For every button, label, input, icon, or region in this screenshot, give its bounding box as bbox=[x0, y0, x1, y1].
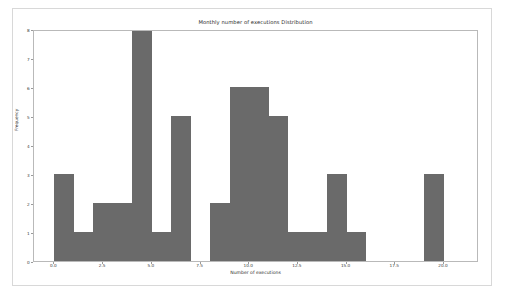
histogram-bar bbox=[269, 116, 288, 261]
histogram-bar bbox=[132, 31, 151, 261]
y-tick-label: 2 bbox=[27, 202, 30, 207]
histogram-bar bbox=[230, 87, 249, 261]
plot-axes bbox=[33, 30, 478, 262]
x-tick-label: 12.5 bbox=[292, 263, 301, 268]
x-tick-label: 10.0 bbox=[244, 263, 253, 268]
x-tick-label: 7.5 bbox=[196, 263, 203, 268]
y-tick-label: 6 bbox=[27, 86, 30, 91]
y-tick-label: 8 bbox=[27, 28, 30, 33]
histogram-bar bbox=[327, 174, 346, 261]
y-tick-label: 4 bbox=[27, 144, 30, 149]
y-tick-mark bbox=[31, 117, 33, 118]
histogram-bar bbox=[74, 232, 93, 261]
y-tick-mark bbox=[31, 233, 33, 234]
x-axis-label: Number of executions bbox=[33, 270, 478, 275]
histogram-bar bbox=[152, 232, 171, 261]
x-tick-label: 15.0 bbox=[341, 263, 350, 268]
y-tick-label: 1 bbox=[27, 231, 30, 236]
histogram-bar bbox=[308, 232, 327, 261]
histogram-bar bbox=[171, 116, 190, 261]
y-tick-mark bbox=[31, 262, 33, 263]
histogram-bar bbox=[424, 174, 443, 261]
y-axis-label: Frequency bbox=[14, 109, 19, 131]
y-tick-label: 3 bbox=[27, 173, 30, 178]
histogram-bar bbox=[113, 203, 132, 261]
y-tick-mark bbox=[31, 204, 33, 205]
x-tick-label: 2.5 bbox=[99, 263, 106, 268]
histogram-bar bbox=[210, 203, 229, 261]
figure-canvas: Monthly number of executions Distributio… bbox=[0, 0, 505, 294]
x-tick-label: 17.5 bbox=[390, 263, 399, 268]
chart-title: Monthly number of executions Distributio… bbox=[33, 19, 478, 25]
y-tick-mark bbox=[31, 175, 33, 176]
histogram-bar bbox=[93, 203, 112, 261]
x-tick-label: 5.0 bbox=[147, 263, 154, 268]
y-tick-label: 7 bbox=[27, 57, 30, 62]
y-tick-mark bbox=[31, 59, 33, 60]
histogram-bar bbox=[288, 232, 307, 261]
y-tick-mark bbox=[31, 88, 33, 89]
histogram-bar bbox=[54, 174, 73, 261]
y-tick-label: 0 bbox=[27, 260, 30, 265]
y-tick-label: 5 bbox=[27, 115, 30, 120]
x-tick-label: 0.0 bbox=[50, 263, 57, 268]
plot-area bbox=[34, 31, 477, 261]
y-tick-mark bbox=[31, 30, 33, 31]
histogram-bar bbox=[249, 87, 268, 261]
histogram-bar bbox=[347, 232, 366, 261]
x-tick-label: 20.0 bbox=[438, 263, 447, 268]
y-tick-mark bbox=[31, 146, 33, 147]
